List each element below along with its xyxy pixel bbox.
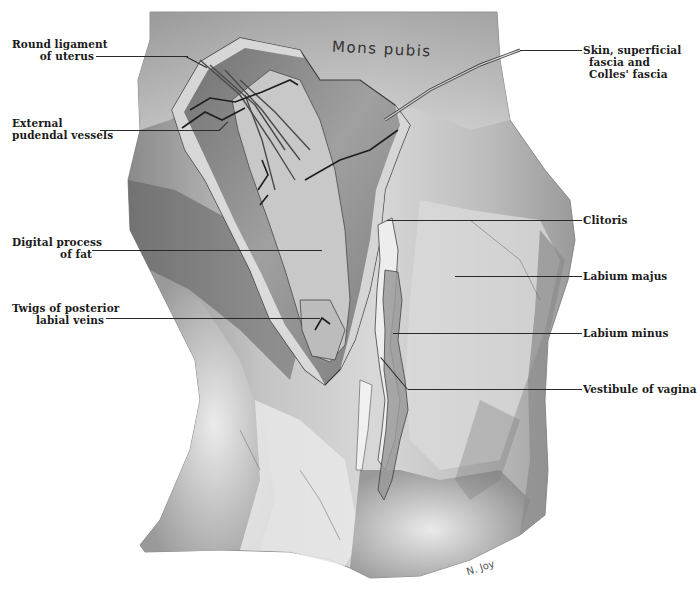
label-external-pudendal-vessels: External pudendal vessels	[12, 117, 102, 141]
label-line: External	[12, 117, 102, 129]
label-line: Twigs of posterior	[12, 302, 104, 314]
label-line: of fat	[12, 248, 92, 260]
label-clitoris: Clitoris	[583, 214, 627, 226]
label-line: labial veins	[12, 314, 104, 326]
label-vestibule: Vestibule of vagina	[583, 383, 697, 395]
label-line: Round ligament	[12, 38, 94, 50]
leader-external-pudendal-vessels	[100, 130, 220, 131]
label-line: Vestibule of vagina	[583, 383, 697, 395]
leader-labium-minus	[393, 333, 582, 334]
label-line: of uterus	[12, 50, 94, 62]
label-line: Digital process	[12, 236, 92, 248]
label-round-ligament: Round ligament of uterus	[12, 38, 94, 62]
label-labium-minus: Labium minus	[583, 327, 668, 339]
leader-vestibule	[408, 389, 582, 390]
label-line: fascia and	[583, 56, 681, 68]
label-digital-process: Digital process of fat	[12, 236, 92, 260]
label-twigs-labial-veins: Twigs of posterior labial veins	[12, 302, 104, 326]
label-line: Labium majus	[583, 270, 667, 282]
label-skin-fascia: Skin, superficial fascia and Colles' fas…	[583, 44, 681, 80]
leader-digital-process	[92, 250, 322, 251]
leader-labium-majus	[455, 276, 582, 277]
leader-skin-fascia	[520, 50, 582, 51]
label-line: Labium minus	[583, 327, 668, 339]
label-line: Skin, superficial	[583, 44, 681, 56]
label-line: Colles' fascia	[583, 68, 681, 80]
leader-clitoris	[387, 220, 582, 221]
label-line: Clitoris	[583, 214, 627, 226]
label-labium-majus: Labium majus	[583, 270, 667, 282]
label-line: pudendal vessels	[12, 129, 102, 141]
leader-twigs-labial-veins	[106, 318, 320, 319]
leader-round-ligament	[96, 56, 188, 57]
